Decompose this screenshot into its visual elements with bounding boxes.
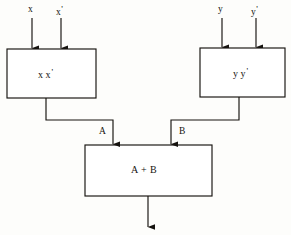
connector-signal-a <box>46 98 113 144</box>
signal-label-a: A <box>99 127 106 137</box>
input-label-y: y <box>218 5 223 15</box>
input-label-y-prime: y' <box>251 5 258 17</box>
block-label-xx: xx' <box>38 68 53 80</box>
prime-mark-x: ' <box>61 4 63 14</box>
prime-mark-block-xx: ' <box>52 67 54 77</box>
input-label-x-prime: x' <box>56 5 63 17</box>
prime-mark-y: ' <box>256 4 258 14</box>
block-label-sum: A + B <box>131 165 157 175</box>
prime-mark-block-yy: ' <box>247 66 249 76</box>
diagram-vector-layer <box>0 0 291 235</box>
signal-label-b: B <box>179 127 185 137</box>
connector-signal-b <box>171 97 239 144</box>
block-label-yy: yy' <box>233 67 248 79</box>
diagram-canvas: x x' y y' xx' yy' A + B A B <box>0 0 291 235</box>
input-label-x: x <box>28 5 33 15</box>
